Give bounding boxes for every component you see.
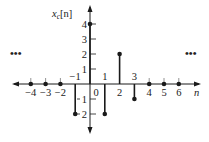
stem-marker [162,82,167,87]
stem-marker [73,112,78,117]
x-axis-label: n [194,87,199,98]
x-tick-label: 3 [132,71,137,82]
stem-marker [58,82,63,87]
x-tick-label: 0 [93,87,98,98]
stem-marker [88,22,93,27]
y-tick-label: 2 [82,49,87,60]
stem-marker [177,82,182,87]
x-tick-label: 5 [161,87,166,98]
tick-labels: 432112−4−3−2−10123456 [25,19,181,120]
x-tick-label: −3 [40,87,51,98]
y-tick-label: 1 [82,64,87,75]
right-continuation-marks: ••• [185,47,197,59]
x-tick-label: 2 [117,87,122,98]
stem-marker [43,82,48,87]
x-tick-label: −2 [55,87,66,98]
stem-marker [147,82,152,87]
x-tick-label: −1 [70,71,81,82]
x-axis-left-arrow [12,82,19,87]
y-tick-label: 2 [82,109,87,120]
x-tick-label: 1 [102,71,107,82]
stems [29,22,182,117]
x-tick-label: 6 [176,87,181,98]
y-tick-label: 1 [82,94,87,105]
stem-marker [132,97,137,102]
x-tick-label: −4 [25,87,37,98]
y-axis-up-arrow [88,5,93,12]
x-tick-label: 4 [147,87,153,98]
stem-marker [103,112,108,117]
y-tick-label: 4 [82,19,88,30]
stem-plot: 432112−4−3−2−10123456 xc[n] n ••• ••• [0,0,209,142]
y-axis-down-arrow [88,127,93,134]
left-continuation-marks: ••• [10,47,22,59]
y-tick-label: 3 [82,34,87,45]
y-axis-label: xc[n] [51,8,72,21]
stem-marker [117,52,122,57]
x-axis-right-arrow [194,82,201,87]
stem-marker [29,82,34,87]
